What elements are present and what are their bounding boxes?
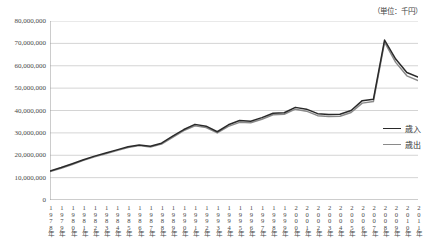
legend-label: 歳出 bbox=[405, 139, 421, 150]
x-tick-label: 1992年 bbox=[203, 204, 210, 237]
x-tick-label: 1996年 bbox=[247, 204, 254, 237]
x-tick-label: 2004年 bbox=[337, 204, 344, 237]
x-tick-label: 2000年 bbox=[292, 204, 299, 237]
x-tick-label: 1987年 bbox=[147, 204, 154, 237]
x-tick-label: 1993年 bbox=[214, 204, 221, 237]
x-tick-label: 1986年 bbox=[136, 204, 143, 237]
x-tick-label: 2010年 bbox=[404, 204, 411, 237]
chart-title bbox=[0, 0, 426, 5]
plot-svg bbox=[50, 21, 418, 200]
y-tick-label: 20,000,000 bbox=[15, 151, 47, 159]
x-tick-label: 1989年 bbox=[169, 204, 176, 237]
x-tick-label: 2005年 bbox=[348, 204, 355, 237]
x-tick-label: 1981年 bbox=[80, 204, 87, 237]
y-tick-label: 10,000,000 bbox=[15, 174, 47, 182]
x-tick-label: 2011年 bbox=[415, 204, 422, 237]
legend-entry[interactable]: 歳入 bbox=[341, 120, 421, 136]
x-tick-label: 1991年 bbox=[192, 204, 199, 237]
y-tick-label: 80,000,000 bbox=[15, 17, 47, 25]
x-tick-label: 2008年 bbox=[381, 204, 388, 237]
plot-area bbox=[50, 21, 418, 200]
line-chart: （単位：千円） 010,000,00020,000,00030,000,0004… bbox=[0, 0, 426, 249]
x-tick-label: 2006年 bbox=[359, 204, 366, 237]
x-tick-label: 1979年 bbox=[58, 204, 65, 237]
y-tick-label: 40,000,000 bbox=[15, 107, 47, 115]
x-tick-label: 1985年 bbox=[125, 204, 132, 237]
y-tick-label: 60,000,000 bbox=[15, 62, 47, 70]
x-tick-label: 1983年 bbox=[102, 204, 109, 237]
series-line bbox=[50, 42, 418, 171]
legend-entry[interactable]: 歳出 bbox=[341, 136, 421, 152]
legend-line-swatch bbox=[383, 128, 401, 129]
x-tick-label: 1988年 bbox=[158, 204, 165, 237]
x-tick-label: 1978年 bbox=[47, 204, 54, 237]
x-tick-label: 2001年 bbox=[303, 204, 310, 237]
x-tick-label: 1995年 bbox=[236, 204, 243, 237]
x-tick-label: 1982年 bbox=[91, 204, 98, 237]
y-tick-label: 30,000,000 bbox=[15, 129, 47, 137]
unit-label: （単位：千円） bbox=[373, 5, 422, 16]
legend-line-swatch bbox=[383, 144, 401, 145]
x-tick-label: 1997年 bbox=[259, 204, 266, 237]
x-tick-label: 1984年 bbox=[114, 204, 121, 237]
y-tick-label: 50,000,000 bbox=[15, 84, 47, 92]
x-tick-label: 2007年 bbox=[370, 204, 377, 237]
x-tick-label: 2003年 bbox=[325, 204, 332, 237]
x-tick-label: 1994年 bbox=[225, 204, 232, 237]
x-axis: 1978年1979年1980年1981年1982年1983年1984年1985年… bbox=[50, 204, 418, 249]
x-tick-label: 1999年 bbox=[281, 204, 288, 237]
x-tick-label: 2002年 bbox=[314, 204, 321, 237]
y-tick-label: 70,000,000 bbox=[15, 39, 47, 47]
y-axis: 010,000,00020,000,00030,000,00040,000,00… bbox=[0, 21, 46, 200]
chart-legend: 歳入歳出 bbox=[341, 120, 421, 152]
x-tick-label: 2009年 bbox=[392, 204, 399, 237]
legend-label: 歳入 bbox=[405, 123, 421, 134]
y-tick-label: 0 bbox=[43, 196, 47, 204]
x-tick-label: 1990年 bbox=[181, 204, 188, 237]
x-tick-label: 1998年 bbox=[270, 204, 277, 237]
x-tick-label: 1980年 bbox=[69, 204, 76, 237]
